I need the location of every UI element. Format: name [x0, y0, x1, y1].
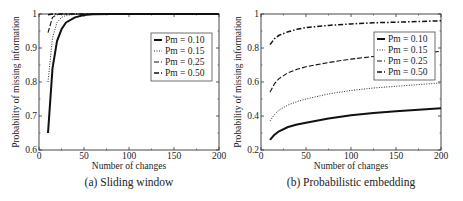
chart-probabilistic-embedding: 0501001502000.20.40.60.81Number of chang… — [233, 9, 448, 189]
x-tick-label: 200 — [212, 151, 227, 161]
y-tick-label: 0.9 — [25, 43, 37, 53]
figure: 0501001502000.60.70.80.91Number of chang… — [0, 0, 463, 201]
figure-caption: (b) Probabilistic embedding — [287, 176, 416, 189]
x-tick-label: 150 — [389, 151, 404, 161]
legend: Pm = 0.10Pm = 0.15Pm = 0.25Pm = 0.50 — [151, 33, 212, 81]
x-tick-label: 150 — [167, 151, 182, 161]
x-axis-label: Number of changes — [92, 161, 167, 171]
legend-entry: Pm = 0.10 — [388, 34, 428, 44]
series-line — [270, 108, 441, 140]
x-tick-label: 0 — [37, 151, 42, 161]
x-axis-label: Number of changes — [314, 161, 389, 171]
legend-entry: Pm = 0.15 — [165, 46, 205, 56]
y-axis-label: Probability of missing information — [11, 16, 21, 148]
legend-entry: Pm = 0.15 — [388, 45, 428, 55]
y-tick-label: 0.6 — [247, 77, 259, 87]
y-tick-label: 0.8 — [247, 43, 259, 53]
y-tick-label: 1 — [32, 9, 37, 19]
x-tick-label: 50 — [301, 151, 311, 161]
legend-entry: Pm = 0.25 — [388, 56, 428, 66]
x-tick-label: 100 — [122, 151, 137, 161]
legend-entry: Pm = 0.50 — [388, 67, 428, 77]
y-tick-label: 0.4 — [247, 111, 259, 121]
x-tick-label: 100 — [344, 151, 359, 161]
y-tick-label: 0.8 — [25, 77, 37, 87]
y-tick-label: 0.2 — [247, 145, 259, 155]
x-tick-label: 200 — [434, 151, 449, 161]
series-line — [48, 14, 219, 33]
chart-sliding-window: 0501001502000.60.70.80.91Number of chang… — [11, 9, 226, 189]
y-axis-label: Probability of missing information — [233, 16, 243, 148]
y-tick-label: 1 — [254, 9, 259, 19]
legend-entry: Pm = 0.25 — [165, 57, 205, 67]
figure-caption: (a) Sliding window — [85, 176, 174, 189]
x-tick-label: 0 — [259, 151, 264, 161]
x-tick-label: 50 — [79, 151, 89, 161]
y-tick-label: 0.6 — [25, 145, 37, 155]
legend: Pm = 0.10Pm = 0.15Pm = 0.25Pm = 0.50 — [374, 32, 435, 80]
legend-entry: Pm = 0.10 — [165, 35, 205, 45]
legend-entry: Pm = 0.50 — [165, 68, 205, 78]
y-tick-label: 0.7 — [25, 111, 37, 121]
